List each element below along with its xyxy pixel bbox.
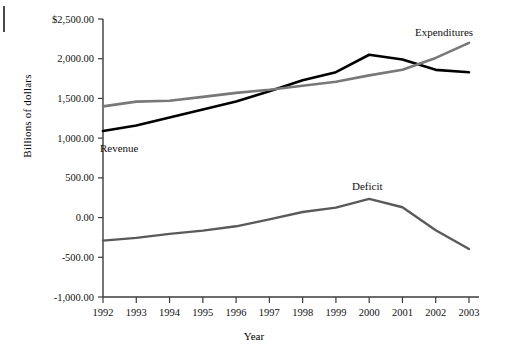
series-line-deficit: [103, 199, 469, 249]
series-line-expenditures: [103, 43, 469, 107]
series-label-deficit: Deficit: [352, 180, 383, 192]
x-axis-tick-label: 1994: [159, 307, 181, 318]
y-axis-tick-label: 2,000.00: [57, 53, 94, 64]
x-axis-tick-label: 1999: [325, 307, 346, 318]
y-axis-tick-label: 1,500.00: [57, 93, 94, 104]
y-axis-tick-label: 0.00: [76, 212, 94, 223]
y-axis-tick-label: 1,000.00: [57, 133, 94, 144]
y-axis-tick-label: $2,500.00: [52, 14, 94, 25]
series-label-expenditures: Expenditures: [415, 26, 473, 38]
y-axis-tick-label: 500.00: [65, 172, 94, 183]
y-axis-tick-label: -500.00: [62, 252, 94, 263]
x-axis-tick-label: 2002: [425, 307, 446, 318]
x-axis-tick-label: 1995: [192, 307, 213, 318]
y-axis-title: Billions of dollars: [21, 41, 33, 191]
x-axis-tick-label: 1992: [93, 307, 114, 318]
x-axis-tick-label: 2001: [392, 307, 413, 318]
x-axis-title: Year: [0, 330, 508, 342]
chart-container: -1,000.00-500.000.00500.001,000.001,500.…: [0, 0, 508, 356]
x-axis-tick-label: 2000: [359, 307, 380, 318]
x-axis-tick-label: 1993: [126, 307, 147, 318]
series-label-revenue: Revenue: [100, 142, 139, 154]
line-chart: -1,000.00-500.000.00500.001,000.001,500.…: [0, 0, 508, 356]
x-axis-tick-label: 2003: [459, 307, 480, 318]
y-axis-tick-label: -1,000.00: [54, 292, 94, 303]
x-axis-tick-label: 1997: [259, 307, 280, 318]
x-axis-tick-label: 1998: [292, 307, 313, 318]
x-axis-tick-label: 1996: [226, 307, 247, 318]
